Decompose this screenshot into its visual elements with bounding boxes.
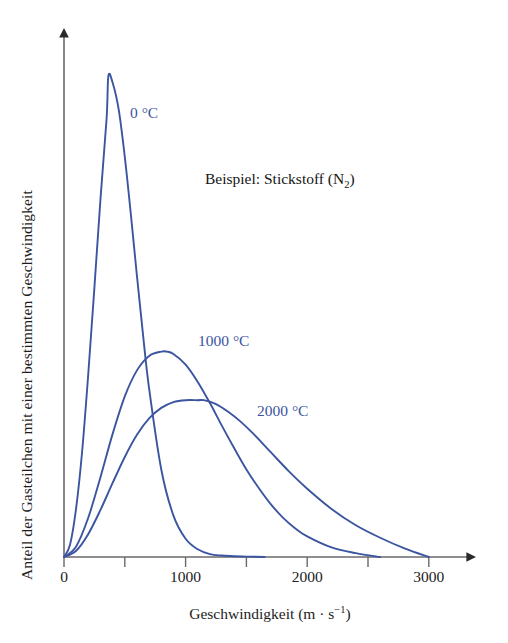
example-annotation-main: Beispiel: Stickstoff (N (205, 170, 344, 187)
chart-plot-area (0, 0, 508, 643)
curve-0-c (64, 74, 265, 557)
x-axis-tick-label: 3000 (413, 568, 444, 586)
data-curves (64, 74, 429, 557)
x-axis-ticks (64, 557, 429, 567)
x-axis-tick-label: 1000 (170, 568, 201, 586)
example-annotation-tail: ) (349, 170, 354, 187)
series-label-2000-c: 2000 °C (257, 402, 308, 420)
series-label-1000-c: 1000 °C (198, 332, 249, 350)
x-axis-tick-label: 2000 (292, 568, 323, 586)
chart-figure: Anteil der Gasteilchen mit einer bestimm… (0, 0, 508, 643)
x-axis-tick-label: 0 (60, 568, 68, 586)
series-label-0-c: 0 °C (130, 104, 158, 122)
example-annotation: Beispiel: Stickstoff (N2) (205, 170, 355, 188)
curve-2000-c (64, 400, 429, 557)
x-axis-title-tail: ) (346, 605, 351, 622)
x-axis-title: Geschwindigkeit (m · s−1) (64, 605, 476, 623)
x-axis-title-main: Geschwindigkeit (m · s (189, 605, 334, 622)
y-axis-title: Anteil der Gasteilchen mit einer bestimm… (18, 20, 36, 580)
x-axis-title-exponent: −1 (334, 604, 345, 615)
curve-1000-c (64, 351, 380, 557)
